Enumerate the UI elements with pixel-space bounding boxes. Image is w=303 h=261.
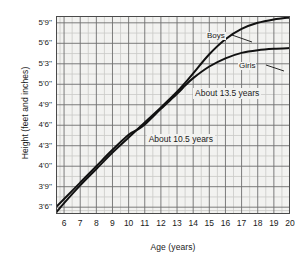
plot-svg xyxy=(56,16,290,214)
growth-chart-figure: Height (feet and inches) Age (years) 3'6… xyxy=(0,0,303,261)
y-tick-label: 5'6'' xyxy=(22,39,52,47)
y-tick-label: 5'9'' xyxy=(22,19,52,27)
series-label-girls: Girls xyxy=(238,62,256,70)
x-tick-label: 20 xyxy=(280,219,300,228)
y-tick-label: 4'0'' xyxy=(22,162,52,170)
y-tick-label: 3'6'' xyxy=(22,203,52,211)
y-tick-label: 3'9'' xyxy=(22,183,52,191)
y-tick-label: 5'0'' xyxy=(22,80,52,88)
plot-area: BoysGirls About 10.5 yearsAbout 13.5 yea… xyxy=(56,16,290,214)
y-tick-label: 4'9'' xyxy=(22,101,52,109)
y-tick-label: 4'6'' xyxy=(22,121,52,129)
x-axis-tick-labels: 67891011121314151617181920 xyxy=(0,219,303,233)
series-label-boys: Boys xyxy=(206,32,226,40)
annotation-1: About 13.5 years xyxy=(193,88,261,99)
y-tick-label: 4'3'' xyxy=(22,142,52,150)
y-tick-label: 5'3'' xyxy=(22,60,52,68)
x-axis-title: Age (years) xyxy=(56,242,290,252)
annotation-0: About 10.5 years xyxy=(147,134,215,145)
